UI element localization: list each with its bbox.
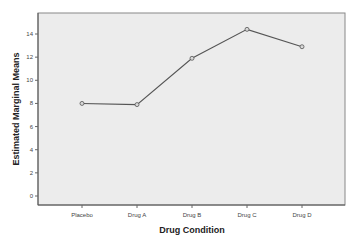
y-tick-label: 12 — [26, 54, 33, 60]
x-axis-ticks: PlaceboDrug ADrug BDrug CDrug D — [71, 205, 312, 218]
data-point-drug-b — [190, 56, 194, 60]
y-axis-ticks: 02468101214 — [26, 31, 38, 199]
y-tick-label: 4 — [30, 147, 34, 153]
y-tick-label: 8 — [30, 100, 34, 106]
x-tick-label: Drug C — [237, 212, 257, 218]
y-axis-title: Estimated Marginal Means — [11, 52, 21, 165]
x-axis-title: Drug Condition — [159, 225, 224, 235]
plot-area — [38, 13, 345, 205]
x-tick-label: Drug A — [128, 212, 146, 218]
data-point-drug-a — [135, 103, 139, 107]
data-point-drug-c — [245, 27, 249, 31]
line-chart: 02468101214 PlaceboDrug ADrug BDrug CDru… — [0, 0, 361, 243]
data-point-drug-d — [300, 45, 304, 49]
y-tick-label: 0 — [30, 193, 34, 199]
y-tick-label: 6 — [30, 124, 34, 130]
x-tick-label: Drug D — [292, 212, 312, 218]
y-tick-label: 10 — [26, 77, 33, 83]
x-tick-label: Drug B — [183, 212, 202, 218]
y-tick-label: 2 — [30, 170, 34, 176]
x-tick-label: Placebo — [71, 212, 93, 218]
y-tick-label: 14 — [26, 31, 33, 37]
data-point-placebo — [80, 101, 84, 105]
